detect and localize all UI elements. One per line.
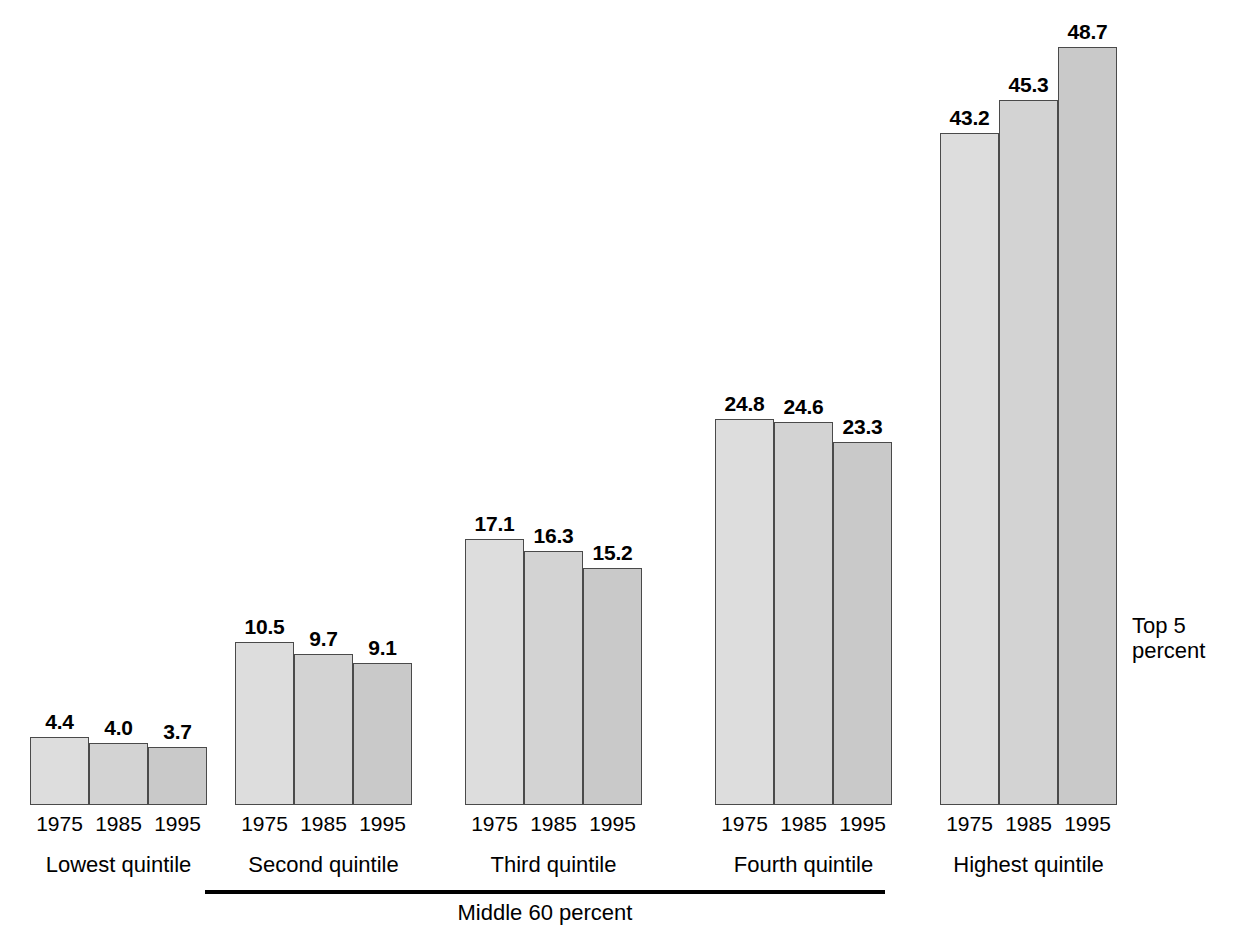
top5-note-line2: percent [1132,639,1205,664]
bar-lowest-quintile-1995[interactable] [148,747,207,805]
year-label-1995: 1995 [140,812,215,836]
bar-fourth-quintile-1995[interactable] [833,442,892,805]
bar-highest-quintile-1975[interactable] [940,133,999,805]
year-label-1995: 1995 [575,812,650,836]
bar-third-quintile-1975[interactable] [465,539,524,805]
bar-lowest-quintile-1975[interactable] [30,737,89,805]
group-label-highest-quintile: Highest quintile [880,852,1177,878]
bar-lowest-quintile-1985[interactable] [89,743,148,805]
middle-60-bracket-line [205,890,885,894]
bar-second-quintile-1995[interactable] [353,663,412,805]
middle-60-bracket-label: Middle 60 percent [205,900,885,926]
bar-fourth-quintile-1975[interactable] [715,419,774,805]
year-label-1995: 1995 [345,812,420,836]
year-label-1995: 1995 [1050,812,1125,836]
bar-third-quintile-1995[interactable] [583,568,642,805]
bar-second-quintile-1975[interactable] [235,642,294,805]
year-label-1995: 1995 [825,812,900,836]
bar-second-quintile-1985[interactable] [294,654,353,805]
bar-value-label: 9.1 [341,636,424,660]
chart-canvas: 4.419754.019853.71995Lowest quintile10.5… [0,0,1234,947]
bar-fourth-quintile-1985[interactable] [774,422,833,805]
bar-highest-quintile-1995[interactable] [1058,47,1117,805]
top5-percent-note: Top 5percent [1132,614,1205,664]
bar-value-label: 48.7 [1046,20,1129,44]
bar-value-label: 15.2 [571,541,654,565]
bar-highest-quintile-1985[interactable] [999,100,1058,805]
bar-value-label: 23.3 [821,415,904,439]
bar-third-quintile-1985[interactable] [524,551,583,805]
bar-value-label: 3.7 [136,720,219,744]
top5-note-line1: Top 5 [1132,614,1205,639]
